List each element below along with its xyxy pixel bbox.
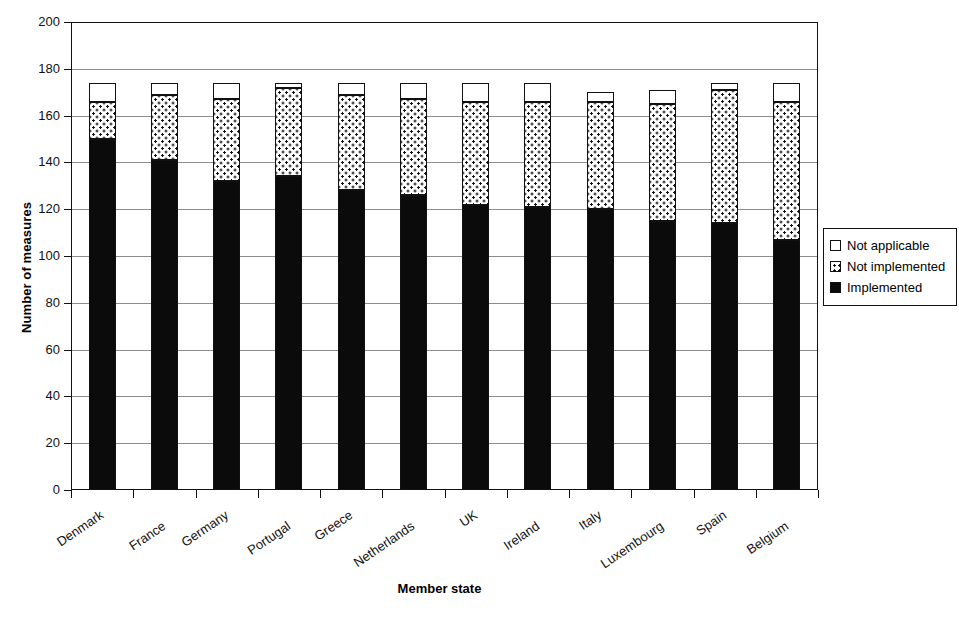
y-axis-tick-label: 100: [14, 249, 60, 262]
bar-segment-notimpl: [213, 99, 240, 181]
dotted-square-icon: [830, 261, 841, 272]
y-axis-tick-label: 20: [14, 436, 60, 449]
x-axis-title-text: Member state: [398, 581, 482, 596]
gridline: [72, 443, 817, 444]
bar-segment-notapp: [711, 83, 738, 90]
bar-stack: [587, 22, 614, 490]
y-axis-tick-label: 60: [14, 343, 60, 356]
bar-segment-notapp: [587, 92, 614, 101]
legend-item: Not implemented: [830, 256, 951, 277]
x-axis-tick-mark: [133, 490, 134, 498]
bar-segment-notapp: [649, 90, 676, 104]
bar-segment-notimpl: [711, 90, 738, 223]
y-axis-tick-mark: [64, 116, 71, 117]
bar-segment-notimpl: [773, 102, 800, 240]
x-axis-tick-mark: [258, 490, 259, 498]
bar-segment-implemented: [89, 139, 116, 490]
y-axis-tick-mark: [64, 209, 71, 210]
y-axis-tick-mark: [64, 303, 71, 304]
x-axis-tick-mark: [818, 490, 819, 498]
x-axis-tick-mark: [382, 490, 383, 498]
bar-stack: [338, 22, 365, 490]
bar-segment-implemented: [275, 176, 302, 490]
y-axis-tick-label: 180: [14, 62, 60, 75]
y-axis-tick-label: 160: [14, 109, 60, 122]
legend-item: Implemented: [830, 277, 951, 298]
x-axis-tick-mark: [631, 490, 632, 498]
bar-segment-notimpl: [649, 104, 676, 221]
bar-stack: [400, 22, 427, 490]
bar-segment-notapp: [151, 83, 178, 95]
bar-segment-implemented: [711, 223, 738, 490]
black-square-icon: [830, 282, 841, 293]
legend-item: Not applicable: [830, 235, 951, 256]
bar-stack: [275, 22, 302, 490]
bar-segment-implemented: [773, 240, 800, 490]
bar-segment-notapp: [275, 83, 302, 88]
x-axis-tick-mark: [196, 490, 197, 498]
bar-stack: [462, 22, 489, 490]
x-axis-tick-mark: [445, 490, 446, 498]
bar-segment-notimpl: [89, 102, 116, 139]
bar-segment-notimpl: [400, 99, 427, 195]
y-axis-tick-mark: [64, 396, 71, 397]
x-axis-tick-mark: [756, 490, 757, 498]
x-axis-title: Member state: [0, 581, 959, 596]
y-axis-tick-mark: [64, 162, 71, 163]
bar-segment-notapp: [462, 83, 489, 102]
bar-segment-implemented: [524, 207, 551, 490]
bar-segment-notimpl: [275, 88, 302, 177]
legend-item-label: Not applicable: [847, 239, 929, 252]
y-axis-tick-mark: [64, 350, 71, 351]
bar-stack: [524, 22, 551, 490]
y-axis-tick-mark: [64, 490, 71, 491]
gridline: [72, 69, 817, 70]
bar-segment-notimpl: [524, 102, 551, 207]
bar-segment-notimpl: [462, 102, 489, 205]
bar-stack: [213, 22, 240, 490]
bar-segment-notimpl: [151, 95, 178, 161]
bar-segment-notapp: [89, 83, 116, 102]
gridline: [72, 116, 817, 117]
bar-segment-implemented: [213, 181, 240, 490]
legend-item-label: Not implemented: [847, 260, 945, 273]
bar-segment-implemented: [400, 195, 427, 490]
chart-legend: Not applicableNot implementedImplemented: [823, 228, 957, 306]
plot-area: [71, 22, 818, 490]
gridline: [72, 209, 817, 210]
bar-segment-notapp: [773, 83, 800, 102]
y-axis-tick-mark: [64, 256, 71, 257]
bar-stack: [649, 22, 676, 490]
bar-segment-implemented: [649, 221, 676, 490]
bar-segment-implemented: [151, 160, 178, 490]
x-axis-tick-mark: [320, 490, 321, 498]
bar-segment-notapp: [338, 83, 365, 95]
bar-segment-implemented: [462, 205, 489, 490]
bar-segment-notapp: [213, 83, 240, 99]
white-square-icon: [830, 240, 841, 251]
bar-segment-implemented: [587, 209, 614, 490]
bar-segment-notimpl: [338, 95, 365, 191]
bar-segment-notapp: [400, 83, 427, 99]
bar-stack: [89, 22, 116, 490]
y-axis-tick-label: 140: [14, 155, 60, 168]
x-axis-tick-mark: [569, 490, 570, 498]
gridline: [72, 350, 817, 351]
y-axis-tick-mark: [64, 443, 71, 444]
gridline: [72, 256, 817, 257]
y-axis-tick-mark: [64, 22, 71, 23]
chart-figure: Number of measures 200180160140120100806…: [0, 0, 959, 622]
bar-stack: [773, 22, 800, 490]
y-axis-tick-label: 0: [14, 483, 60, 496]
y-axis-tick-mark: [64, 69, 71, 70]
y-axis-tick-label: 40: [14, 389, 60, 402]
y-axis-tick-label: 120: [14, 202, 60, 215]
y-axis-tick-label: 200: [14, 15, 60, 28]
legend-item-label: Implemented: [847, 281, 922, 294]
x-axis-tick-mark: [71, 490, 72, 498]
y-axis-tick-label: 80: [14, 296, 60, 309]
gridline: [72, 303, 817, 304]
x-axis-tick-mark: [507, 490, 508, 498]
gridline: [72, 162, 817, 163]
gridline: [72, 396, 817, 397]
